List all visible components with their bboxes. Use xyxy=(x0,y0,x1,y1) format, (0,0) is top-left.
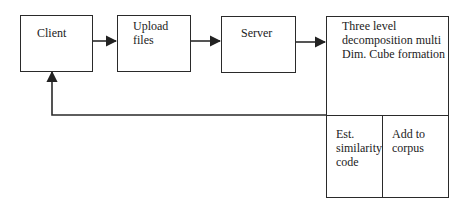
client-box: Client xyxy=(20,15,93,72)
upload-files-label: Upload files xyxy=(133,19,168,47)
corpus-box: Add to corpus xyxy=(382,115,449,198)
client-label: Client xyxy=(37,26,66,40)
arrow-feedback-to-client xyxy=(52,72,326,115)
decomposition-label: Three level decomposition multi Dim. Cub… xyxy=(342,19,445,61)
similarity-label: Est. similarity code xyxy=(336,127,382,169)
decomposition-box: Three level decomposition multi Dim. Cub… xyxy=(326,16,449,117)
server-box: Server xyxy=(221,16,296,73)
similarity-box: Est. similarity code xyxy=(326,115,384,198)
server-label: Server xyxy=(241,26,272,40)
corpus-label: Add to corpus xyxy=(392,127,425,155)
upload-files-box: Upload files xyxy=(117,15,191,72)
